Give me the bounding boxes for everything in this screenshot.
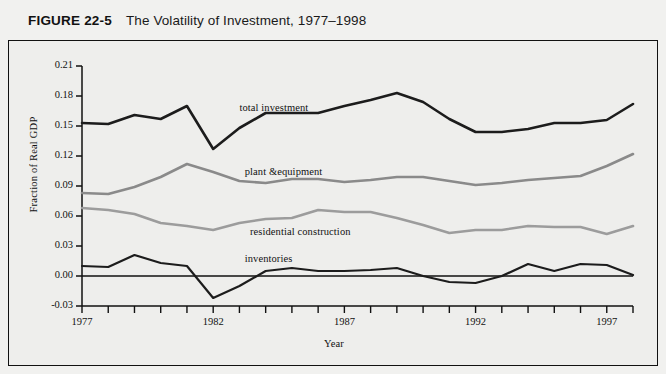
y-axis-title: Fraction of Real GDP [28,85,39,245]
x-axis-title: Year [9,338,658,349]
series-label-total-investment: total investment [239,102,308,113]
y-tick-label: 0.18 [21,89,73,100]
figure-root: FIGURE 22-5 The Volatility of Investment… [0,0,666,374]
y-tick-label: 0.12 [21,149,73,160]
chart-panel: Fraction of Real GDP Year 0.210.180.150.… [8,40,658,366]
series-line [82,208,633,234]
x-tick-label: 1992 [456,316,496,327]
y-tick-label: 0.06 [21,209,73,220]
y-tick-label: 0.09 [21,179,73,190]
figure-title: The Volatility of Investment, 1977–1998 [126,13,366,28]
y-tick-label: 0.03 [21,239,73,250]
y-tick-label: 0.00 [21,269,73,280]
y-tick-label: 0.15 [21,119,73,130]
series-line [82,93,633,149]
x-tick-label: 1982 [193,316,233,327]
x-tick-label: 1977 [62,316,102,327]
y-tick-label: -0.03 [21,299,73,310]
series-line [82,154,633,194]
figure-header: FIGURE 22-5 The Volatility of Investment… [0,0,666,40]
figure-number: FIGURE 22-5 [28,13,112,28]
series-label-residential-construction: residential construction [250,226,351,237]
series-label-inventories: inventories [245,253,293,264]
x-tick-label: 1997 [587,316,627,327]
series-label-plant-equipment: plant &equipment [245,166,323,177]
x-tick-label: 1987 [324,316,364,327]
y-tick-label: 0.21 [21,59,73,70]
